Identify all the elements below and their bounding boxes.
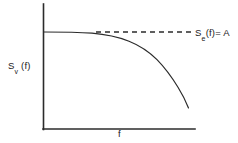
plot-canvas [0, 0, 238, 143]
asymptote-label-main: S [195, 27, 202, 38]
y-axis-label-main: S [8, 60, 15, 71]
y-axis-label-tail: (f) [18, 60, 30, 71]
asymptote-label-subscript: e [202, 35, 206, 42]
spectral-density-figure: Sv (f) f Se(f)= A [0, 0, 238, 143]
y-axis-label: Sv (f) [8, 61, 31, 71]
x-axis-label: f [118, 129, 121, 139]
asymptote-label: Se(f)= A [195, 28, 230, 38]
y-axis-label-subscript: v [15, 68, 19, 75]
asymptote-label-tail: (f)= A [206, 27, 230, 38]
sv-response-curve [44, 32, 189, 108]
